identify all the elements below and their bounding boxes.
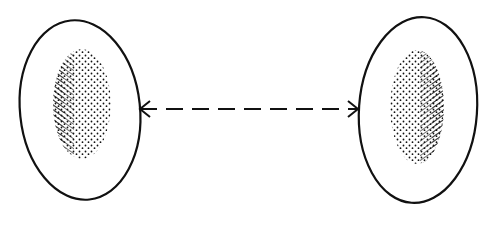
interaction-arrow — [140, 101, 358, 117]
right-cell — [353, 13, 484, 207]
left-cell-nucleus — [50, 45, 111, 165]
cell-interaction-diagram — [0, 0, 497, 227]
diagram-canvas — [0, 0, 497, 227]
left-cell — [11, 14, 149, 206]
right-cell-nucleus — [390, 45, 446, 170]
